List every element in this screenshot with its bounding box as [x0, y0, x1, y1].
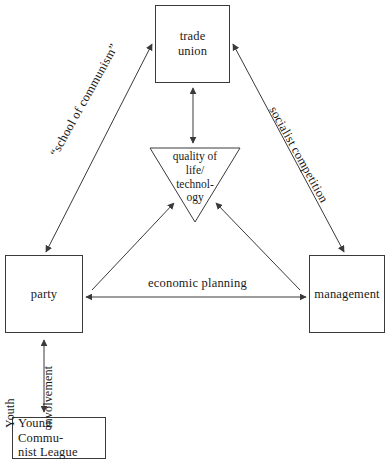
node-young-communist-league-label: Young Commu- nist League	[13, 416, 105, 459]
node-management-label: management	[314, 287, 379, 302]
edge-label-economic-planning: economic planning	[148, 276, 247, 291]
node-party[interactable]: party	[5, 255, 83, 333]
quality-of-life-triangle	[150, 148, 240, 222]
diagram-canvas: trade union quality of life/ technol- og…	[0, 0, 388, 463]
node-party-label: party	[31, 287, 57, 302]
node-management[interactable]: management	[309, 255, 385, 333]
node-young-communist-league[interactable]: Young Commu- nist League	[12, 417, 106, 459]
edge-label-youth: Youth	[3, 398, 18, 428]
node-trade-union[interactable]: trade union	[155, 5, 230, 83]
node-trade-union-label: trade union	[178, 29, 207, 59]
edge-label-involvement: involvement	[41, 366, 56, 428]
